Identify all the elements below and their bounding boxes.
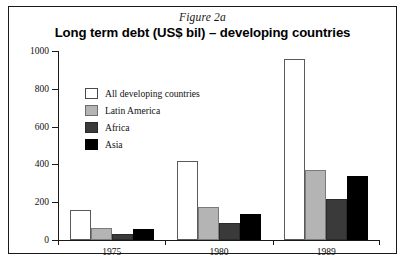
- bar-1980-all-developing-countries: [177, 161, 198, 239]
- chart-title: Long term debt (US$ bil) – developing co…: [9, 25, 396, 40]
- y-axis-tick-label: 0: [44, 235, 49, 245]
- legend-swatch-icon: [85, 105, 98, 116]
- y-axis-tick-label: 200: [35, 197, 49, 207]
- bar-1989-africa: [326, 199, 347, 240]
- legend-swatch-icon: [85, 88, 98, 99]
- legend-item-label: Latin America: [105, 105, 160, 116]
- y-axis-tick-label: 600: [35, 122, 49, 132]
- legend-item: Africa: [85, 119, 200, 135]
- bar-group-bars: [273, 52, 380, 240]
- legend-item: All developing countries: [85, 85, 200, 101]
- x-axis-tick-label: 1989: [273, 247, 380, 257]
- x-axis-tick-label: 1975: [58, 247, 165, 257]
- chart-legend: All developing countriesLatin AmericaAfr…: [85, 85, 200, 153]
- x-axis-tick-label: 1980: [165, 247, 272, 257]
- x-axis-tick: [58, 241, 59, 245]
- legend-item: Asia: [85, 136, 200, 152]
- bar-1989-all-developing-countries: [284, 59, 305, 240]
- x-axis-line: [58, 240, 380, 241]
- bar-1980-africa: [219, 223, 240, 240]
- legend-swatch-icon: [85, 139, 98, 150]
- legend-item: Latin America: [85, 102, 200, 118]
- bar-1975-all-developing-countries: [70, 210, 91, 240]
- bar-1975-latin-america: [91, 228, 112, 240]
- legend-swatch-icon: [85, 122, 98, 133]
- figure-frame: Figure 2a Long term debt (US$ bil) – dev…: [8, 6, 397, 254]
- x-axis-tick: [165, 241, 166, 245]
- y-axis-tick-label: 1000: [30, 46, 49, 56]
- bar-1989-asia: [347, 176, 368, 240]
- bar-group: 1989: [273, 52, 380, 240]
- bar-1989-latin-america: [305, 170, 326, 240]
- y-axis-tick-label: 800: [35, 84, 49, 94]
- x-axis-tick: [379, 241, 380, 245]
- legend-item-label: Asia: [105, 139, 123, 150]
- legend-item-label: Africa: [105, 122, 130, 133]
- bar-1975-africa: [112, 234, 133, 240]
- bar-1980-latin-america: [198, 207, 219, 240]
- x-axis-tick: [273, 241, 274, 245]
- figure-caption: Figure 2a: [9, 11, 396, 23]
- legend-item-label: All developing countries: [105, 88, 200, 99]
- bar-1980-asia: [240, 214, 261, 240]
- y-axis-tick-label: 400: [35, 159, 49, 169]
- bar-1975-asia: [133, 229, 154, 239]
